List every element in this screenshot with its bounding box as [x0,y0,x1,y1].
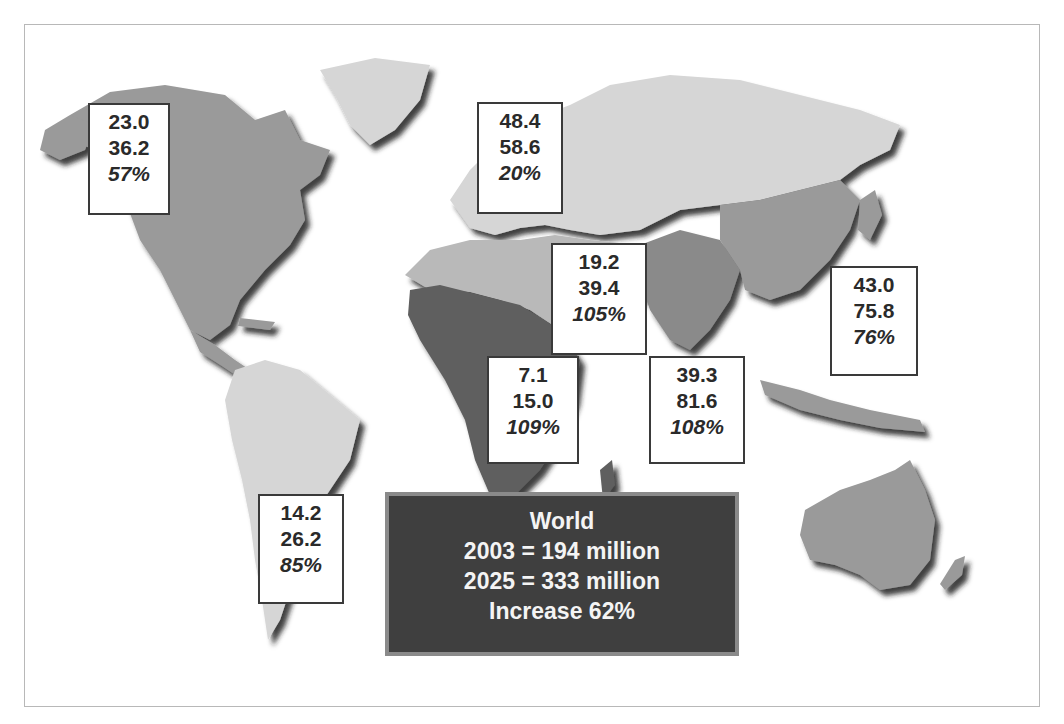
value-2003: 14.2 [260,500,342,526]
value-2025: 26.2 [260,526,342,552]
north-america-label: 23.0 36.2 57% [88,103,170,215]
value-2003: 48.4 [479,108,561,134]
world-2025: 2025 = 333 million [389,566,735,596]
value-2003: 39.3 [651,362,743,388]
increase-percent: 109% [489,414,577,440]
greenland-shape [320,58,430,145]
value-2025: 36.2 [90,135,168,161]
world-title: World [389,506,735,536]
value-2025: 39.4 [553,275,645,301]
japan-shape [858,190,882,240]
australia-shape [800,460,935,590]
value-2003: 43.0 [832,272,916,298]
increase-percent: 85% [260,552,342,578]
africa-label: 7.1 15.0 109% [487,356,579,464]
value-2025: 75.8 [832,298,916,324]
increase-percent: 57% [90,161,168,187]
increase-percent: 108% [651,414,743,440]
value-2025: 81.6 [651,388,743,414]
value-2003: 19.2 [553,249,645,275]
increase-percent: 105% [553,301,645,327]
value-2003: 7.1 [489,362,577,388]
middle-east-label: 19.2 39.4 105% [551,243,647,355]
world-increase: Increase 62% [389,596,735,626]
value-2025: 15.0 [489,388,577,414]
value-2025: 58.6 [479,134,561,160]
indonesia-shape [760,380,925,432]
increase-percent: 76% [832,324,916,350]
south-east-asia-label: 39.3 81.6 108% [649,356,745,464]
europe-label: 48.4 58.6 20% [477,102,563,214]
south-east-asia-shape [640,230,740,350]
new-zealand-shape [940,556,965,590]
increase-percent: 20% [479,160,561,186]
world-2003: 2003 = 194 million [389,536,735,566]
south-central-america-label: 14.2 26.2 85% [258,494,344,604]
caribbean-shape [238,318,275,330]
alaska-shape [40,115,95,160]
world-summary-box: World 2003 = 194 million 2025 = 333 mill… [385,492,739,656]
value-2003: 23.0 [90,109,168,135]
western-pacific-label: 43.0 75.8 76% [830,266,918,376]
